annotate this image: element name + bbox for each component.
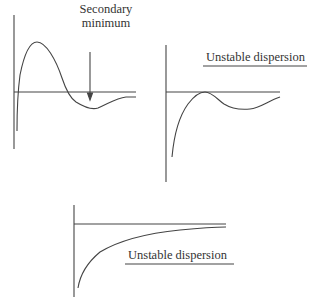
panel-2-label: Unstable dispersion (206, 50, 305, 64)
potential-energy-diagrams: Secondary minimum Unstable dispersion Un… (0, 0, 320, 308)
secondary-minimum-label: Secondary minimum (75, 2, 137, 30)
arrow-head-icon (88, 93, 93, 100)
panel-2-curve (172, 92, 280, 157)
secondary-minimum-label-line2: minimum (75, 16, 137, 30)
panel-1-secondary-minimum (14, 15, 136, 149)
panel-2-unstable-dispersion (166, 45, 307, 182)
secondary-minimum-label-line1: Secondary (75, 2, 137, 16)
panel-1-curve (17, 42, 136, 131)
panel-3-label: Unstable dispersion (128, 248, 227, 262)
